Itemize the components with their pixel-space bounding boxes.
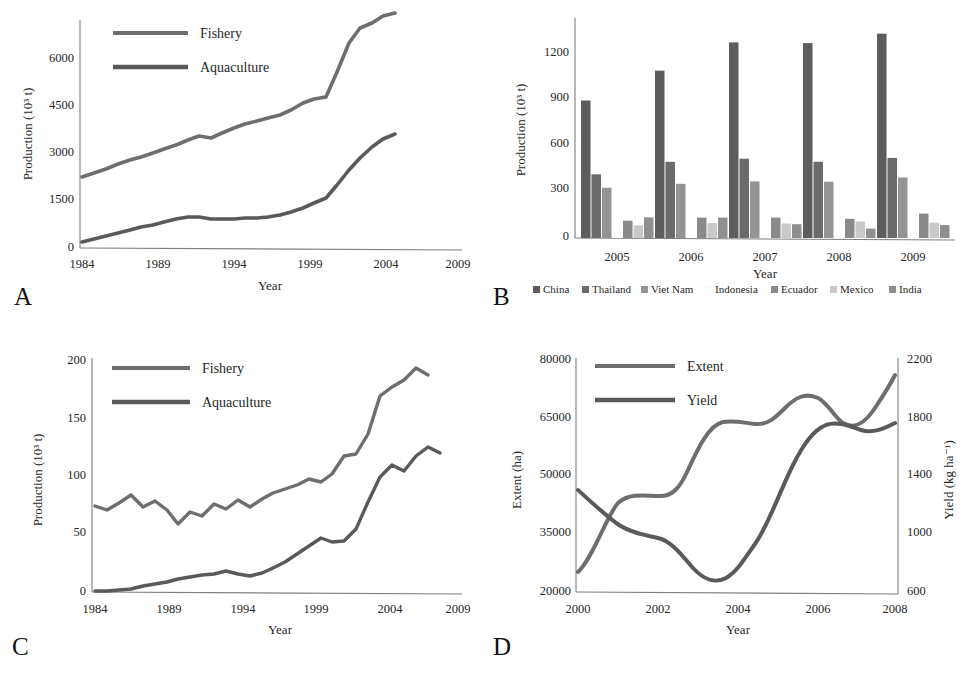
panel-b-x-ticklabels: 2005 2006 2007 2008 2009: [605, 250, 926, 264]
bar-mexico: [708, 223, 718, 238]
bar-china: [655, 71, 665, 238]
x-tick-label: 2006: [806, 602, 831, 616]
bar-thailand: [592, 174, 602, 238]
panel-letter-d: D: [493, 633, 511, 660]
bar-ecuador: [697, 218, 707, 238]
bar-india: [866, 229, 876, 238]
y-tick-label: 600: [550, 136, 569, 150]
bar-india: [792, 224, 802, 238]
legend-swatch-ecuador: [771, 286, 778, 293]
legend-swatch-china: [533, 286, 540, 293]
x-tick-label: 1989: [146, 257, 171, 271]
panel-c-axes: [92, 358, 462, 594]
figure-container: 6000 4500 3000 1500 0 1984 1989 1994 199…: [0, 0, 967, 682]
x-tick-label: 2004: [378, 602, 404, 616]
y-right-tick-label: 1400: [907, 467, 932, 481]
legend-swatch-indonesia: [705, 286, 712, 293]
bar-thailand: [666, 162, 676, 238]
y-left-tick-label: 65000: [540, 410, 571, 424]
x-tick-label: 1999: [298, 257, 323, 271]
x-tick-label: 1989: [157, 602, 182, 616]
y-tick-label: 200: [67, 353, 86, 367]
y-left-axis-title: Extent (ha): [509, 451, 524, 509]
y-tick-label: 0: [80, 584, 86, 598]
x-tick-label: 2009: [446, 257, 471, 271]
y-tick-label: 6000: [49, 51, 74, 65]
panel-b-bar-chart: 1200 900 600 300 0: [483, 0, 967, 318]
bar-mexico: [856, 222, 866, 239]
bar-india: [644, 217, 654, 238]
panel-c-x-ticklabels: 1984 1989 1994 1999 2004 2009: [83, 602, 471, 616]
panel-d-legend: Extent Yield: [595, 359, 724, 408]
bar-group-2005: [581, 101, 654, 239]
x-tick-label: 2004: [374, 257, 400, 271]
bar-group-2007: [729, 42, 802, 238]
x-tick-label: 1994: [231, 602, 257, 616]
bar-indonesia: [761, 237, 771, 238]
x-tick-label: 2002: [646, 602, 671, 616]
y-right-axis-title: Yield (kg ha⁻¹): [941, 440, 956, 520]
bar-china: [729, 42, 739, 238]
y-tick-label: 4500: [49, 98, 74, 112]
y-tick-label: 3000: [49, 145, 74, 159]
y-left-tick-label: 80000: [540, 352, 571, 366]
x-tick-label: 1984: [83, 602, 109, 616]
legend-label-thailand: Thailand: [592, 283, 632, 295]
series-line-yield: [578, 423, 895, 581]
legend-label-indonesia: Indonesia: [715, 283, 758, 295]
x-tick-label: 2004: [726, 602, 752, 616]
bar-thailand: [740, 159, 750, 238]
legend-swatch-india: [889, 286, 896, 293]
x-axis-title: Year: [753, 266, 778, 281]
bar-china: [803, 43, 813, 238]
legend-label-china: China: [543, 283, 569, 295]
bar-vietnam: [824, 182, 834, 238]
legend-label-vietnam: Viet Nam: [651, 283, 694, 295]
y-left-tick-label: 35000: [540, 525, 571, 539]
y-left-tick-label: 50000: [540, 467, 571, 481]
bar-ecuador: [845, 219, 855, 238]
series-line-extent: [578, 375, 895, 572]
bar-indonesia: [613, 237, 623, 238]
bar-mexico: [634, 225, 644, 238]
bar-group-2008: [803, 43, 876, 238]
y-right-tick-label: 1800: [907, 410, 932, 424]
panel-c-legend: Fishery Aquaculture: [112, 361, 271, 410]
legend-label-fishery: Fishery: [202, 361, 244, 376]
bar-indonesia: [909, 237, 919, 238]
x-tick-label: 1994: [222, 257, 248, 271]
x-tick-label: 2006: [679, 250, 704, 264]
legend-label-yield: Yield: [687, 393, 717, 408]
y-right-tick-label: 1000: [907, 525, 932, 539]
bar-mexico: [930, 223, 940, 238]
x-tick-label: 1984: [70, 257, 96, 271]
y-tick-label: 0: [563, 229, 569, 243]
bar-vietnam: [898, 178, 908, 239]
x-axis-title: Year: [268, 622, 293, 637]
bar-group-2006: [655, 71, 728, 238]
y-tick-label: 150: [67, 411, 86, 425]
y-tick-label: 1200: [544, 45, 569, 59]
bar-ecuador: [623, 221, 633, 238]
x-tick-label: 1999: [304, 602, 329, 616]
bar-thailand: [888, 158, 898, 238]
panel-b-legend: China Thailand Viet Nam Indonesia Ecuado…: [533, 283, 922, 295]
y-right-tick-label: 600: [907, 584, 926, 598]
panel-a-x-ticklabels: 1984 1989 1994 1999 2004 2009: [70, 257, 471, 271]
legend-label-aquaculture: Aquaculture: [202, 395, 271, 410]
x-tick-label: 2000: [566, 602, 591, 616]
y-tick-label: 900: [550, 90, 569, 104]
legend-label-aquaculture: Aquaculture: [200, 60, 269, 75]
bar-vietnam: [602, 188, 612, 238]
y-tick-label: 100: [67, 468, 86, 482]
x-axis-title: Year: [726, 622, 751, 637]
x-tick-label: 2005: [605, 250, 630, 264]
series-line-aquaculture: [82, 134, 395, 242]
panel-a-line-chart: 6000 4500 3000 1500 0 1984 1989 1994 199…: [0, 0, 484, 318]
panel-b-y-ticklabels: 1200 900 600 300 0: [544, 45, 569, 243]
x-tick-label: 2009: [446, 602, 471, 616]
panel-d-dual-axis-chart: 80000 65000 50000 35000 20000 2200 1800 …: [483, 330, 967, 660]
legend-label-extent: Extent: [687, 359, 724, 374]
x-tick-label: 2007: [753, 250, 778, 264]
panel-d-right-ticklabels: 2200 1800 1400 1000 600: [907, 352, 932, 598]
